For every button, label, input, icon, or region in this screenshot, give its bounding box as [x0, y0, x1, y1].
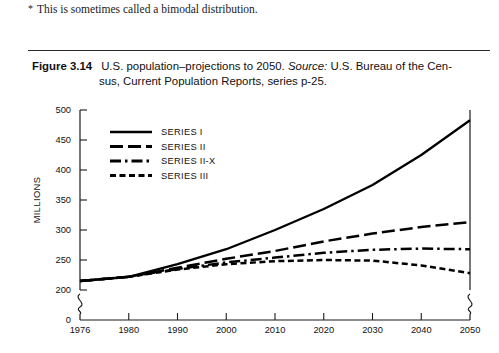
figure-label: Figure 3.14: [32, 60, 92, 72]
x-tick-label: 2020: [313, 325, 334, 335]
y-tick-label: 300: [55, 225, 71, 235]
x-tick-label: 2040: [411, 325, 432, 335]
footnote: *This is sometimes called a bimodal dist…: [28, 3, 258, 15]
x-tick-label: 2050: [460, 325, 481, 335]
y-tick-label: 350: [55, 195, 71, 205]
legend-label-2: SERIES II: [161, 142, 206, 152]
y-tick-label: 0: [66, 315, 71, 325]
x-tick-label: 1976: [70, 325, 91, 335]
y-axis-title: MILLIONS: [32, 177, 42, 224]
legend-label-3: SERIES II-X: [161, 156, 215, 166]
y-tick-label: 250: [55, 255, 71, 265]
y-axis-break-symbol: [78, 294, 82, 314]
y-tick-label: 450: [55, 135, 71, 145]
x-tick-label: 2000: [216, 325, 237, 335]
chart-canvas: 0200250300350400450500197619801990200020…: [0, 96, 499, 353]
caption-line1-b: U.S. Bureau of the Cen-: [330, 60, 452, 72]
x-tick-label: 1990: [167, 325, 188, 335]
legend-label-4: SERIES III: [161, 171, 208, 181]
y-tick-label: 500: [55, 105, 71, 115]
population-projection-chart: 0200250300350400450500197619801990200020…: [0, 96, 499, 353]
y-tick-label: 200: [55, 285, 71, 295]
caption-divider: [28, 50, 490, 51]
y-tick-label: 400: [55, 165, 71, 175]
x-tick-label: 2030: [362, 325, 383, 335]
footnote-text: This is sometimes called a bimodal distr…: [37, 3, 258, 15]
caption-line2: sus, Current Population Reports, series …: [99, 74, 490, 89]
caption-line1-a: U.S. population–projections to 2050.: [101, 60, 285, 72]
x-tick-label: 1980: [118, 325, 139, 335]
right-axis-break-symbol: [468, 294, 472, 314]
figure-caption: Figure 3.14U.S. population–projections t…: [32, 59, 490, 88]
footnote-marker: *: [28, 3, 33, 14]
x-tick-label: 2010: [265, 325, 286, 335]
series-line-4: [80, 260, 470, 281]
legend-label-1: SERIES I: [161, 127, 203, 137]
source-label: Source:: [288, 60, 327, 72]
